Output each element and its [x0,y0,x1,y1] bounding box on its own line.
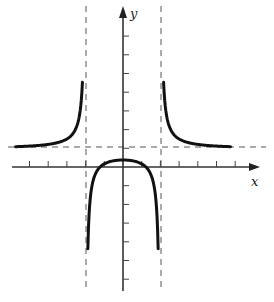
x-axis-arrow-icon [249,163,260,171]
x-axis [12,163,260,171]
y-axis-label: y [129,6,138,21]
y-ticks [123,36,129,279]
curve-right-branch [164,82,231,146]
x-axis-label: x [251,174,259,189]
y-axis-arrow-icon [119,6,127,18]
curve-left-branch [15,82,82,146]
graph-canvas: y x [0,0,274,302]
